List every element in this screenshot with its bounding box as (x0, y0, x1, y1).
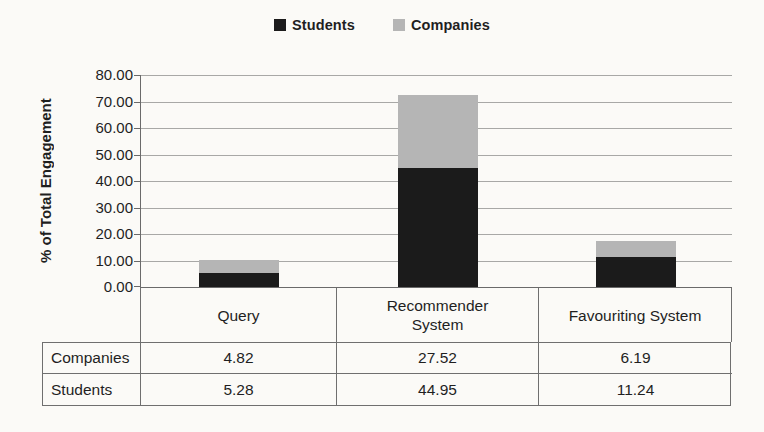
y-axis-tick-label: 80.00 (58, 66, 133, 84)
table-value-cell: 4.82 (141, 343, 337, 374)
legend-swatch-icon (274, 19, 286, 31)
category-label-favouriting-system: Favouriting System (539, 288, 732, 342)
y-axis-tick-mark (134, 128, 141, 129)
y-axis-tick-label: 30.00 (58, 199, 133, 217)
table-value-cell: 6.19 (539, 343, 732, 374)
y-axis-title: % of Total Engagement (34, 75, 56, 287)
y-axis-tick-label: 0.00 (58, 278, 133, 296)
table-value-cell: 5.28 (141, 374, 337, 405)
gridline (141, 75, 732, 76)
legend-label: Students (292, 17, 355, 33)
y-axis-tick-label: 10.00 (58, 252, 133, 270)
y-axis-tick-label: 40.00 (58, 172, 133, 190)
bar-query-students (199, 273, 279, 287)
y-axis-tick-mark (134, 155, 141, 156)
table-value-cell: 44.95 (337, 374, 539, 405)
table-row-label-companies: Companies (43, 343, 141, 374)
table-row-label-students: Students (43, 374, 141, 405)
y-axis-tick-mark (134, 181, 141, 182)
category-label-recommender-system: Recommender System (337, 288, 539, 342)
legend-label: Companies (411, 17, 490, 33)
bar-recommender-system-companies (398, 95, 478, 168)
table-value-cell: 11.24 (539, 374, 732, 405)
y-axis-tick-label: 20.00 (58, 225, 133, 243)
bar-favouriting-system-students (596, 257, 676, 287)
y-axis-tick-mark (134, 234, 141, 235)
legend-item-students: Students (274, 17, 355, 33)
y-axis-tick-mark (134, 102, 141, 103)
table-value-cell: 27.52 (337, 343, 539, 374)
y-axis-tick-mark (134, 75, 141, 76)
y-axis-tick-mark (134, 208, 141, 209)
bar-recommender-system-students (398, 168, 478, 287)
category-label-query: Query (141, 288, 337, 342)
y-axis-tick-label: 50.00 (58, 146, 133, 164)
stacked-bar-chart-figure: StudentsCompanies % of Total Engagement … (0, 0, 764, 432)
x-axis-category-labels: QueryRecommender SystemFavouriting Syste… (140, 288, 732, 342)
legend-item-companies: Companies (393, 17, 490, 33)
y-axis-tick-labels: 80.0070.0060.0050.0040.0030.0020.0010.00… (58, 75, 133, 287)
chart-legend: StudentsCompanies (0, 13, 764, 37)
y-axis-tick-mark (134, 261, 141, 262)
bar-favouriting-system-companies (596, 241, 676, 257)
legend-swatch-icon (393, 19, 405, 31)
y-axis-tick-mark (134, 286, 141, 287)
plot-area (140, 75, 732, 288)
y-axis-tick-label: 70.00 (58, 93, 133, 111)
bar-query-companies (199, 260, 279, 273)
data-table: Companies4.8227.526.19Students5.2844.951… (42, 342, 731, 406)
y-axis-tick-label: 60.00 (58, 119, 133, 137)
